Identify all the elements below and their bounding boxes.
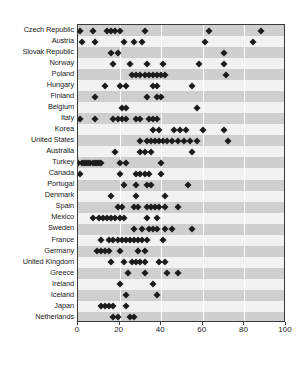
x-axis-tick bbox=[119, 322, 120, 325]
y-axis-label-japan: Japan bbox=[0, 302, 74, 309]
row-band bbox=[78, 69, 284, 80]
y-axis-label-ireland: Ireland bbox=[0, 280, 74, 287]
y-axis-label-czech-republic: Czech Republic bbox=[0, 26, 74, 33]
y-axis-label-australia: Australia bbox=[0, 147, 74, 154]
row-band bbox=[78, 91, 284, 102]
y-axis-label-korea: Korea bbox=[0, 125, 74, 132]
y-axis-label-mexico: Mexico bbox=[0, 213, 74, 220]
x-axis-tick-label: 20 bbox=[114, 326, 123, 334]
y-axis-label-netherlands: Netherlands bbox=[0, 313, 74, 320]
y-axis-label-france: France bbox=[0, 236, 74, 243]
y-axis-label-italy: Italy bbox=[0, 114, 74, 121]
x-axis-tick-label: 80 bbox=[239, 326, 248, 334]
x-axis-tick-label: 0 bbox=[75, 326, 79, 334]
y-axis-category-labels: Czech RepublicAustriaSlovak RepublicNorw… bbox=[0, 24, 74, 322]
gridline bbox=[203, 25, 204, 321]
y-axis-label-turkey: Turkey bbox=[0, 158, 74, 165]
x-axis-tick bbox=[243, 322, 244, 325]
y-axis-label-poland: Poland bbox=[0, 70, 74, 77]
y-axis-label-united-kingdom: United Kingdom bbox=[0, 258, 74, 265]
x-axis-tick bbox=[160, 322, 161, 325]
gridline bbox=[244, 25, 245, 321]
x-axis-tick-label: 60 bbox=[197, 326, 206, 334]
row-band bbox=[78, 102, 284, 113]
row-band bbox=[78, 224, 284, 235]
row-band bbox=[78, 146, 284, 157]
x-axis-tick bbox=[77, 322, 78, 325]
row-band bbox=[78, 80, 284, 91]
y-axis-label-canada: Canada bbox=[0, 169, 74, 176]
y-axis-label-finland: Finland bbox=[0, 92, 74, 99]
y-axis-label-hungary: Hungary bbox=[0, 81, 74, 88]
y-axis-label-greece: Greece bbox=[0, 269, 74, 276]
y-axis-label-iceland: Iceland bbox=[0, 291, 74, 298]
y-axis-label-portugal: Portugal bbox=[0, 180, 74, 187]
x-axis-tick bbox=[285, 322, 286, 325]
row-band bbox=[78, 168, 284, 179]
x-axis-tick-label: 100 bbox=[278, 326, 291, 334]
dot-plot-chart: Czech RepublicAustriaSlovak RepublicNorw… bbox=[0, 0, 299, 365]
y-axis-label-sweden: Sweden bbox=[0, 224, 74, 231]
y-axis-label-spain: Spain bbox=[0, 202, 74, 209]
x-axis-tick-labels: 020406080100 bbox=[0, 326, 299, 340]
y-axis-label-slovak-republic: Slovak Republic bbox=[0, 48, 74, 55]
y-axis-label-denmark: Denmark bbox=[0, 191, 74, 198]
y-axis-label-norway: Norway bbox=[0, 59, 74, 66]
x-axis-tick-label: 40 bbox=[156, 326, 165, 334]
y-axis-label-belgium: Belgium bbox=[0, 103, 74, 110]
row-band bbox=[78, 180, 284, 191]
y-axis-label-united-states: United States bbox=[0, 136, 74, 143]
row-band bbox=[78, 279, 284, 290]
y-axis-label-austria: Austria bbox=[0, 37, 74, 44]
row-band bbox=[78, 290, 284, 301]
row-band bbox=[78, 157, 284, 168]
plot-area bbox=[77, 24, 285, 322]
y-axis-label-germany: Germany bbox=[0, 247, 74, 254]
x-axis-tick bbox=[202, 322, 203, 325]
